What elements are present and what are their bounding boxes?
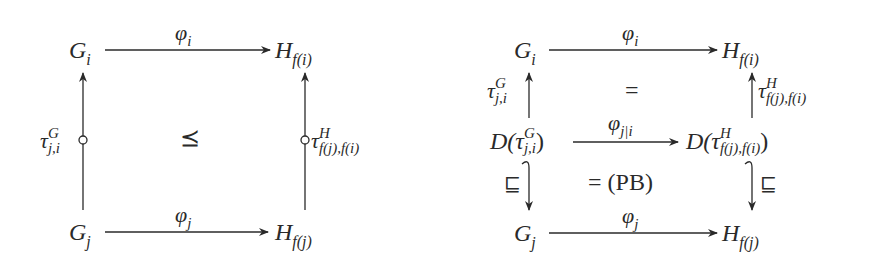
right-lower-right-hook-arrow bbox=[745, 162, 752, 210]
node-h-fi: Hf(i) bbox=[275, 38, 312, 62]
r-label-sqsubseteq-left: ⊑ bbox=[504, 174, 521, 194]
node-h-fj: Hf(j) bbox=[275, 220, 312, 244]
label-phi-i: φi bbox=[175, 22, 191, 44]
right-lower-left-hook-arrow bbox=[522, 162, 529, 210]
node-g-j: Gj bbox=[69, 220, 91, 244]
relation-preceq: ⪯ bbox=[180, 126, 200, 150]
r-node-g-i: Gi bbox=[514, 38, 536, 62]
r-node-h-fi: Hf(i) bbox=[722, 38, 759, 62]
r-label-tau-g-ji: τGj,i bbox=[487, 78, 507, 108]
left-right-partial-circle-icon bbox=[301, 136, 309, 144]
r-relation-equals: = bbox=[625, 78, 639, 102]
label-tau-h-fjfi: τHf(j),f(i) bbox=[311, 128, 359, 158]
r-node-g-j: Gj bbox=[514, 221, 536, 245]
r-relation-pullback: = (PB) bbox=[588, 170, 653, 194]
label-phi-j: φj bbox=[175, 204, 191, 226]
r-label-tau-h-fjfi: τHf(j),f(i) bbox=[758, 78, 806, 108]
r-label-phi-i: φi bbox=[622, 22, 638, 44]
node-g-i: Gi bbox=[69, 38, 91, 62]
r-label-sqsubseteq-right: ⊑ bbox=[760, 174, 777, 194]
r-node-d-tau-g: D(τGj,i) bbox=[490, 128, 544, 158]
r-node-h-fj: Hf(j) bbox=[722, 221, 759, 245]
r-node-d-tau-h: D(τHf(j),f(i)) bbox=[686, 128, 768, 158]
label-tau-g-ji: τGj,i bbox=[40, 128, 60, 158]
left-left-partial-circle-icon bbox=[79, 136, 87, 144]
r-label-phi-ji: φj|i bbox=[608, 112, 633, 134]
r-label-phi-j: φj bbox=[622, 205, 638, 227]
